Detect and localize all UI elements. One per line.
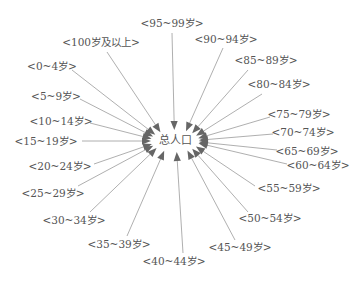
age-group-node: <80~84岁> <box>247 78 310 90</box>
age-group-node: <10~14岁> <box>29 115 92 127</box>
age-group-node: <50~54岁> <box>238 212 301 224</box>
edge-line <box>177 161 183 253</box>
edge-line <box>94 147 143 164</box>
arrowhead-icon <box>186 122 193 132</box>
edge-line <box>198 155 248 212</box>
age-group-node: <15~19岁> <box>14 135 77 147</box>
age-group-node: <20~24岁> <box>28 160 91 172</box>
edge-line <box>203 151 255 186</box>
edge-line <box>90 123 143 136</box>
age-group-node: <70~74岁> <box>271 126 334 138</box>
edge-line <box>172 33 174 121</box>
population-age-diagram: <95~99岁><100岁及以上><90~94岁><0~4岁><85~89岁><… <box>0 0 359 282</box>
center-node-total-population: 总人口 <box>159 133 192 147</box>
age-group-node: <95~99岁> <box>140 17 203 29</box>
age-group-node: <40~44岁> <box>142 255 205 267</box>
age-group-node: <75~79岁> <box>267 108 330 120</box>
edge-line <box>198 70 248 127</box>
arrowhead-icon <box>157 151 164 161</box>
age-group-node: <35~39岁> <box>87 238 150 250</box>
age-group-node: <100岁及以上> <box>62 36 140 48</box>
arrowhead-icon <box>152 123 160 132</box>
age-group-node: <30~34岁> <box>42 214 105 226</box>
age-group-node: <85~89岁> <box>234 54 297 66</box>
edge-line <box>192 158 235 240</box>
arrowhead-icon <box>171 121 178 130</box>
edge-line <box>190 48 223 123</box>
edge-line <box>208 143 277 150</box>
age-group-node: <5~9岁> <box>31 90 81 102</box>
age-group-node: <65~69岁> <box>275 145 338 157</box>
edge-line <box>207 117 270 136</box>
edge-line <box>204 94 262 131</box>
age-group-node: <25~29岁> <box>21 187 84 199</box>
edge-line <box>127 159 161 236</box>
edge-line <box>208 134 273 139</box>
arrowhead-icon <box>174 152 181 161</box>
edge-line <box>107 52 155 125</box>
age-group-node: <90~94岁> <box>194 33 257 45</box>
age-group-node: <55~59岁> <box>257 182 320 194</box>
age-group-node: <45~49岁> <box>208 241 271 253</box>
age-group-node: <0~4岁> <box>27 60 77 72</box>
age-group-node: <60~64岁> <box>286 159 349 171</box>
